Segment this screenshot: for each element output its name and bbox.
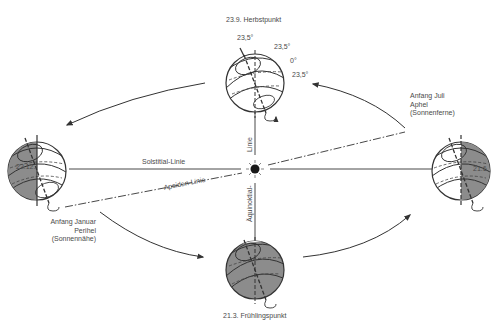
label-angle-4: 23,5°	[292, 71, 308, 80]
label-solstitial-linie: Solstitial-Linie	[142, 158, 185, 167]
label-aphel: Anfang Juli Aphel (Sonnenferne)	[410, 92, 455, 118]
label-perihel: Anfang Januar Perihel (Sonnennähe)	[48, 218, 96, 244]
perihel-line-3: (Sonnennähe)	[48, 235, 96, 244]
label-fruehlingspunkt: 21.3. Frühlingspunkt	[223, 312, 286, 321]
earth-orbit-seasons-diagram	[0, 0, 504, 332]
orbit-arrow-left-bottom	[100, 212, 203, 257]
aphel-line-1: Anfang Juli	[410, 92, 455, 101]
orbit-arrows	[67, 83, 410, 257]
label-date-left: 22.12.	[16, 163, 35, 172]
orbit-arrow-top-left	[67, 83, 205, 125]
earth-globe-left	[8, 135, 66, 211]
perihel-line-2: Perihel	[48, 227, 96, 236]
label-angle-3: 0°	[290, 57, 297, 66]
orbit-arrow-bottom-right	[303, 215, 410, 257]
label-date-right: 21.6.	[473, 165, 489, 174]
sun-icon	[246, 160, 264, 178]
label-angle-2: 23,5°	[274, 43, 290, 52]
earth-globe-top	[226, 48, 285, 121]
perihel-line-1: Anfang Januar	[48, 218, 96, 227]
label-angle-1: 23,5°	[237, 34, 253, 43]
aphel-line-3: (Sonnenferne)	[410, 109, 455, 118]
apsiden-line	[65, 132, 405, 207]
aphel-line-2: Aphel	[410, 101, 455, 110]
label-herbstpunkt: 23.9. Herbstpunkt	[226, 16, 281, 25]
earth-globe-bottom	[226, 237, 285, 308]
orbit-arrow-right-top	[313, 84, 405, 128]
label-aequinoktial: Äquinoktial-	[246, 185, 253, 222]
label-linie: Linie	[246, 137, 253, 152]
